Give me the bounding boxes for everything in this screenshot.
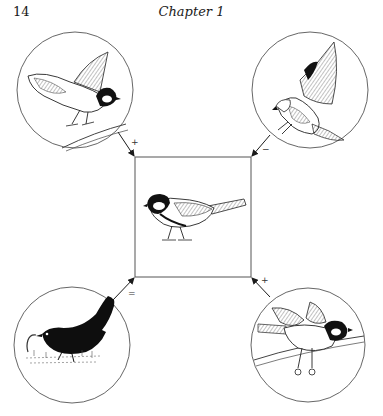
panel-bottom-right: + (251, 275, 365, 402)
panel-bottom-left: = (14, 278, 136, 403)
center-panel (135, 157, 251, 277)
sign-positive-bottom-right: + (261, 275, 269, 285)
sign-negative-top-right: − (262, 144, 270, 154)
panel-top-right: − (252, 32, 368, 156)
sign-positive-top-left: + (131, 137, 139, 147)
sign-neutral-bottom-left: = (128, 288, 136, 298)
panel-top-left: + (17, 32, 139, 156)
interaction-figure: + − (0, 0, 383, 416)
